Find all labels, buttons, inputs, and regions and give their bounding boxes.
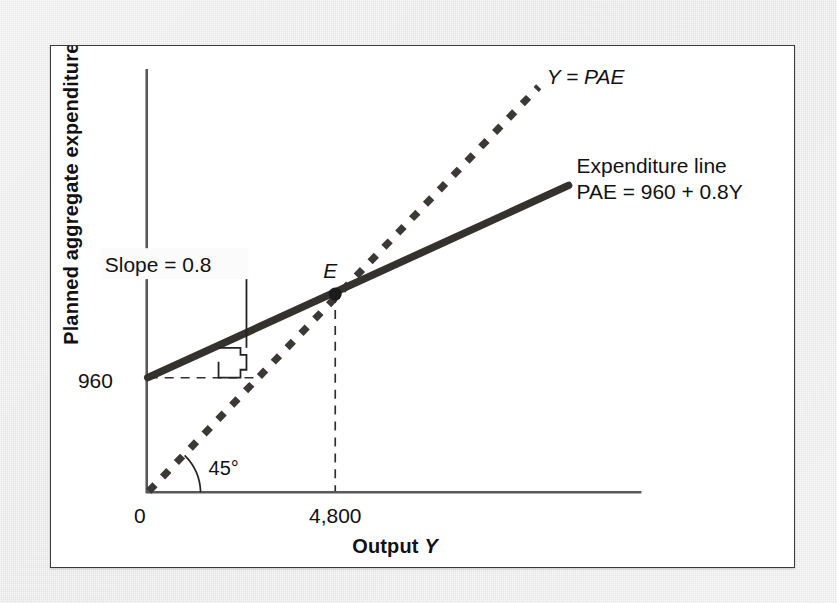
- y-axis-title: Planned aggregate expenditure PAE: [60, 46, 82, 345]
- equilibrium-point-marker[interactable]: [329, 288, 342, 301]
- x-tick-label-4800: 4,800: [309, 504, 361, 527]
- equilibrium-point-label: E: [323, 259, 338, 282]
- expenditure-equation-y: Y: [729, 180, 743, 203]
- expenditure-line-label-equation: PAE = 960 + 0.8Y: [577, 180, 743, 203]
- x-tick-label-origin: 0: [134, 504, 146, 527]
- expenditure-line-label-title: Expenditure line: [577, 154, 727, 177]
- slope-bracket: [219, 348, 247, 378]
- slope-annotation-label: Slope = 0.8: [105, 253, 212, 276]
- angle-arc: [185, 455, 201, 492]
- expenditure-equation-body: = 960 + 0.8: [617, 180, 729, 203]
- y-axis-title-main: Planned aggregate expenditure: [60, 46, 82, 345]
- expenditure-equation-pae: PAE: [577, 180, 617, 203]
- x-axis-title-italic: Y: [424, 535, 439, 557]
- figure-panel: Slope = 0.8 45° E Y = PAE Expenditure li…: [50, 45, 795, 568]
- forty-five-line-label: Y = PAE: [547, 65, 626, 88]
- x-axis-title-main: Output: [352, 535, 424, 557]
- expenditure-line: [148, 185, 569, 377]
- angle-annotation-label: 45°: [209, 457, 239, 479]
- keynesian-cross-chart: Slope = 0.8 45° E Y = PAE Expenditure li…: [51, 46, 794, 567]
- x-axis-title: Output Y: [352, 535, 439, 557]
- y-tick-label-960: 960: [78, 369, 113, 392]
